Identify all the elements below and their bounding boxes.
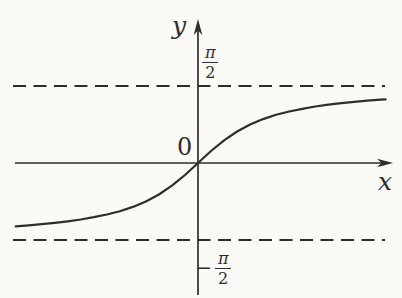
fraction-numerator: π bbox=[215, 251, 232, 268]
fraction-denominator: 2 bbox=[202, 62, 218, 80]
pi-over-two-fraction: π 2 bbox=[215, 251, 232, 286]
fraction-numerator: π bbox=[202, 45, 219, 62]
minus-sign: − bbox=[196, 258, 212, 277]
lower-asymptote-label: − π 2 bbox=[196, 251, 231, 286]
fraction-denominator: 2 bbox=[215, 268, 231, 286]
y-axis-label: y bbox=[172, 13, 186, 38]
upper-asymptote-label: π 2 bbox=[202, 45, 219, 80]
x-axis-label: x bbox=[378, 169, 392, 194]
origin-label: 0 bbox=[177, 135, 192, 159]
pi-over-two-fraction: π 2 bbox=[202, 45, 219, 80]
arctan-graph: y x 0 π 2 − π 2 bbox=[0, 0, 402, 298]
